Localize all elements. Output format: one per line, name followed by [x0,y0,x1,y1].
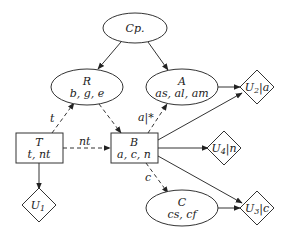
edge-label-nt: nt [79,135,91,148]
node-a-attrs: as, al, am [155,87,208,100]
node-u2-suffix: |a [259,81,269,95]
node-u3: U3|c [240,191,274,225]
node-t: T t, nt [16,133,63,163]
node-u1-sub: 1 [40,204,45,213]
node-u1: U1 [22,188,56,222]
node-u4: U4|n [207,131,241,165]
edge-t-r [52,103,74,133]
edges [39,42,242,208]
edge-label-a: a|* [138,111,154,125]
edge-cp-r [98,42,121,69]
node-cp-title: Cp. [126,22,145,35]
node-c-attrs: cs, cf [167,208,198,221]
node-t-attrs: t, nt [28,148,51,161]
edge-label-c: c [145,171,151,184]
node-c: C cs, cf [146,190,218,226]
node-u4-suffix: |n [226,142,237,156]
edge-label-t: t [50,112,55,125]
node-u3-suffix: |c [259,202,269,216]
node-b: B a, c, n [111,133,158,163]
node-a: A as, al, am [146,69,218,105]
diagram-canvas: t nt a|* c Cp. R b, g, e A as, al, am C … [0,0,284,235]
node-r: R b, g, e [51,69,123,105]
edge-r-b [99,104,121,133]
node-r-attrs: b, g, e [70,87,105,100]
node-u2: U2|a [240,70,274,104]
node-cp: Cp. [103,13,167,43]
edge-cp-a [148,42,168,70]
node-b-attrs: a, c, n [117,148,151,161]
